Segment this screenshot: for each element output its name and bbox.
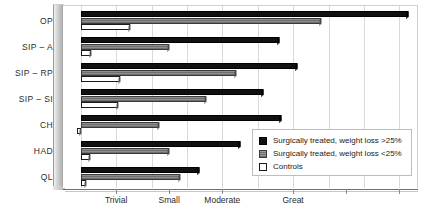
bar-end-cap [118, 76, 121, 84]
bar-end-cap [167, 43, 170, 51]
legend-entry-weight-loss-over-25: Surgically treated, weight loss >25% [259, 134, 406, 147]
bar-sip-si-series-2 [81, 96, 207, 102]
bar-end-cap [295, 63, 298, 71]
x-tick-label-trivial: Trivial [105, 196, 127, 205]
bar-end-cap [157, 121, 160, 129]
legend-entry-controls: Controls [259, 160, 406, 173]
bar-had-series-2 [81, 148, 170, 154]
bar-op-series-2 [81, 18, 322, 24]
bar-sip-rp-series-1 [81, 63, 297, 69]
bar-op-series-1 [81, 11, 409, 17]
bar-ql-series-1 [81, 167, 200, 173]
x-tick-label-great: Great [282, 196, 303, 205]
bar-sip-si-series-3 [81, 102, 118, 108]
bar-ch-series-1 [81, 115, 281, 121]
bar-had-series-1 [81, 141, 240, 147]
bar-end-cap [89, 50, 92, 58]
bar-sip-rp-series-3 [81, 76, 120, 82]
bar-end-cap [277, 37, 280, 45]
bar-group [63, 32, 417, 58]
bar-end-cap [88, 154, 91, 162]
horizontal-bar-chart: OP SIP – A SIP – RP SIP – SI CH HAD QL T… [0, 0, 424, 215]
category-label-ql: QL [0, 173, 53, 182]
x-tick-mark [346, 189, 347, 194]
x-tick-label-small: Small [159, 196, 180, 205]
bar-sip-si-series-1 [81, 89, 263, 95]
bar-sip-a-series-3 [81, 50, 92, 56]
bar-end-cap [279, 115, 282, 123]
bar-group [63, 58, 417, 84]
category-label-had: HAD [0, 147, 53, 156]
bar-ql-series-3 [81, 180, 86, 186]
bar-end-cap [204, 95, 207, 103]
category-label-sip-si: SIP – SI [0, 95, 53, 104]
bar-end-cap [234, 69, 237, 77]
bar-ql-series-2 [81, 174, 180, 180]
bar-op-series-3 [81, 24, 131, 30]
x-tick-mark [222, 189, 223, 194]
bar-end-cap [84, 180, 87, 188]
solid-black-swatch-icon [259, 137, 267, 145]
bar-end-cap [178, 173, 181, 181]
bar-sip-a-series-1 [81, 37, 279, 43]
bar-end-cap [197, 167, 200, 175]
bar-end-cap [128, 24, 131, 32]
bar-end-cap [116, 102, 119, 110]
bar-ch-series-3 [77, 128, 81, 134]
bar-had-series-3 [81, 154, 90, 160]
legend-label-weight-loss-over-25: Surgically treated, weight loss >25% [273, 137, 402, 145]
legend-label-controls: Controls [273, 163, 303, 171]
x-tick-label-moderate: Moderate [204, 196, 240, 205]
bar-end-cap [319, 17, 322, 25]
bar-end-cap [406, 11, 409, 19]
x-tick-mark [169, 189, 170, 194]
bar-ch-series-2 [81, 122, 159, 128]
outlined-white-swatch-icon [259, 163, 267, 171]
hatched-gray-swatch-icon [259, 150, 267, 158]
x-tick-mark [399, 189, 400, 194]
bar-end-cap [167, 147, 170, 155]
x-tick-mark [116, 189, 117, 194]
legend-entry-weight-loss-under-25: Surgically treated, weight loss <25% [259, 147, 406, 160]
category-label-sip-a: SIP – A [0, 43, 53, 52]
x-axis-line-shadow [65, 191, 418, 192]
x-tick-mark [293, 189, 294, 194]
bar-end-cap [79, 128, 82, 136]
legend-label-weight-loss-under-25: Surgically treated, weight loss <25% [273, 150, 402, 158]
category-label-op: OP [0, 17, 53, 26]
category-label-sip-rp: SIP – RP [0, 69, 53, 78]
category-label-ch: CH [0, 121, 53, 130]
bar-sip-a-series-2 [81, 44, 170, 50]
bar-group [63, 6, 417, 32]
bar-group [63, 84, 417, 110]
bar-end-cap [238, 141, 241, 149]
category-axis: OP SIP – A SIP – RP SIP – SI CH HAD QL [0, 0, 53, 215]
bar-end-cap [261, 89, 264, 97]
chart-legend: Surgically treated, weight loss >25% Sur… [252, 129, 412, 176]
bar-sip-rp-series-2 [81, 70, 237, 76]
